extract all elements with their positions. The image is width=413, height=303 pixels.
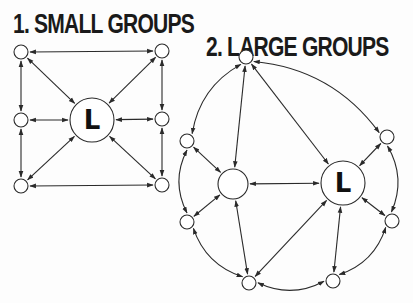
bidirectional-arrow [235, 66, 245, 167]
bidirectional-arrow [30, 185, 153, 186]
bidirectional-arrow [27, 58, 74, 103]
member-node [385, 214, 399, 228]
bidirectional-arrow [179, 150, 187, 213]
member-node [14, 45, 28, 59]
leader-label: L [335, 168, 352, 198]
bidirectional-arrow [254, 61, 379, 132]
member-node [155, 112, 169, 126]
member-node [14, 179, 28, 193]
member-node [242, 276, 256, 290]
bidirectional-arrow [193, 228, 242, 276]
bidirectional-arrow [339, 227, 385, 274]
bidirectional-arrow [110, 136, 156, 179]
member-node [326, 274, 340, 288]
bidirectional-arrow [109, 57, 155, 103]
bidirectional-arrow [362, 198, 385, 216]
small-groups-network: L [14, 44, 169, 193]
bidirectional-arrow [28, 136, 75, 180]
bidirectional-arrow [116, 119, 153, 120]
bidirectional-arrow [194, 147, 221, 172]
member-node [155, 44, 169, 58]
bidirectional-arrow [192, 64, 241, 133]
bidirectional-arrow [194, 195, 220, 216]
bidirectional-arrow [360, 144, 381, 166]
bidirectional-arrow [30, 51, 153, 52]
bidirectional-arrow [388, 146, 398, 212]
member-node [180, 134, 194, 148]
leader-label: L [84, 105, 101, 135]
bidirectional-arrow [334, 207, 341, 272]
subgroup-node [218, 169, 248, 199]
bidirectional-arrow [258, 281, 324, 290]
bidirectional-arrow [236, 201, 248, 274]
member-node [14, 113, 28, 127]
bidirectional-arrow [255, 200, 326, 276]
member-node [180, 215, 194, 229]
member-node [155, 178, 169, 192]
member-node [239, 50, 253, 64]
communication-network-diagram: L L [0, 0, 413, 303]
bidirectional-arrow [250, 183, 319, 184]
large-groups-network: L [179, 50, 399, 290]
member-node [380, 130, 394, 144]
